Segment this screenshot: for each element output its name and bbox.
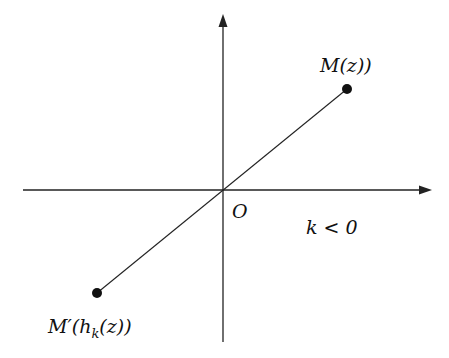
m-prime-head: M′(h (47, 315, 91, 337)
point-m (342, 84, 352, 94)
y-axis-arrow-icon (219, 14, 228, 27)
segment-m-mprime (97, 89, 347, 293)
point-m-prime (92, 288, 102, 298)
point-m-label: M(z)) (319, 54, 372, 76)
point-m-prime-label: M′(hk(z)) (47, 315, 132, 341)
x-axis-arrow-icon (419, 186, 432, 195)
m-prime-tail: (z)) (99, 315, 131, 337)
origin-label: O (232, 200, 248, 222)
diagram-canvas: M(z)) O k < 0 M′(hk(z)) (0, 0, 449, 358)
condition-label: k < 0 (306, 216, 358, 238)
m-prime-subscript: k (91, 326, 99, 341)
homothety-diagram: M(z)) O k < 0 M′(hk(z)) (0, 0, 449, 358)
